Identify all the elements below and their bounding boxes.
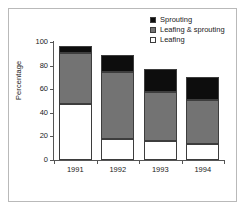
bar-segment-1992-leafing-sprouting[interactable] <box>101 72 134 139</box>
bar-segment-1991-sprouting[interactable] <box>59 46 92 53</box>
x-tick-mark <box>182 160 183 164</box>
x-tick-label-1994: 1994 <box>194 166 211 174</box>
bar-1994[interactable] <box>186 77 219 159</box>
y-tick-label: 40 <box>40 109 48 117</box>
y-tick-label: 20 <box>40 132 48 140</box>
plot-area: 020406080100 1991199219931994 <box>54 42 224 160</box>
bar-1991[interactable] <box>59 46 92 160</box>
legend-swatch-icon <box>150 27 156 33</box>
y-tick-label: 80 <box>40 62 48 70</box>
y-tick-mark <box>50 89 54 90</box>
bar-segment-1993-leafing[interactable] <box>144 141 177 159</box>
bar-segment-1991-leafing[interactable] <box>59 104 92 159</box>
y-tick-mark <box>50 66 54 67</box>
figure: Percentage 020406080100 1991199219931994… <box>0 0 247 212</box>
x-tick-mark <box>97 160 98 164</box>
y-tick-mark <box>50 136 54 137</box>
y-tick-mark <box>50 42 54 43</box>
legend-label: Sprouting <box>160 16 192 24</box>
bar-segment-1991-leafing-sprouting[interactable] <box>59 53 92 105</box>
y-tick-label: 100 <box>35 38 48 46</box>
bar-segment-1993-sprouting[interactable] <box>144 69 177 92</box>
y-tick-label: 0 <box>44 156 48 164</box>
bar-segment-1993-leafing-sprouting[interactable] <box>144 92 177 141</box>
bar-segment-1992-leafing[interactable] <box>101 139 134 160</box>
legend-label: Leafing & sprouting <box>160 26 225 34</box>
bar-segment-1992-sprouting[interactable] <box>101 55 134 72</box>
x-tick-label-1991: 1991 <box>67 166 84 174</box>
legend-item-leafing-sprouting[interactable]: Leafing & sprouting <box>150 26 225 34</box>
x-tick-label-1993: 1993 <box>152 166 169 174</box>
legend-item-leafing[interactable]: Leafing <box>150 36 225 44</box>
bar-1992[interactable] <box>101 55 134 160</box>
legend-item-sprouting[interactable]: Sprouting <box>150 16 225 24</box>
legend-swatch-icon <box>150 17 156 23</box>
bar-segment-1994-sprouting[interactable] <box>186 77 219 100</box>
x-tick-mark <box>224 160 225 164</box>
y-axis-label: Percentage <box>14 61 23 100</box>
x-tick-label-1992: 1992 <box>109 166 126 174</box>
bar-segment-1994-leafing[interactable] <box>186 144 219 159</box>
legend-label: Leafing <box>160 36 185 44</box>
legend-swatch-icon <box>150 37 156 43</box>
bar-1993[interactable] <box>144 69 177 159</box>
x-tick-mark <box>54 160 55 164</box>
y-tick-label: 60 <box>40 85 48 93</box>
bar-segment-1994-leafing-sprouting[interactable] <box>186 100 219 144</box>
chart-legend: SproutingLeafing & sproutingLeafing <box>150 16 225 46</box>
x-tick-mark <box>139 160 140 164</box>
y-tick-mark <box>50 113 54 114</box>
